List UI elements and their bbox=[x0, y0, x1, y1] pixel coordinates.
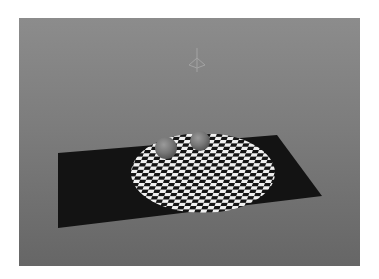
render-viewport[interactable] bbox=[19, 18, 360, 266]
sphere-right[interactable] bbox=[190, 131, 210, 151]
scene-canvas bbox=[19, 18, 360, 266]
sphere-left[interactable] bbox=[155, 137, 177, 159]
spot-light-icon[interactable] bbox=[189, 48, 205, 72]
